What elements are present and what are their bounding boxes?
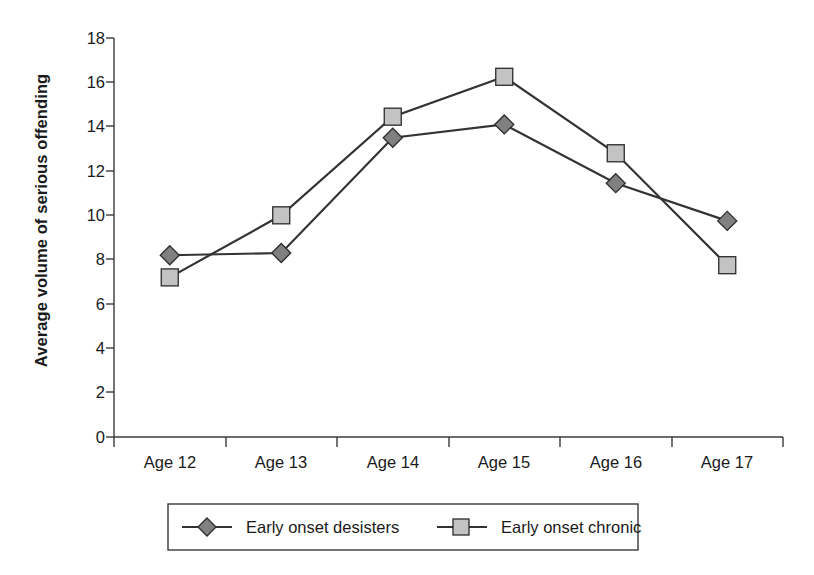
data-point-square (161, 269, 178, 286)
y-tick-label: 0 (96, 428, 105, 446)
y-tick-label: 8 (96, 250, 105, 268)
series-line (170, 77, 728, 278)
y-tick-labels: 18 16 14 12 10 8 6 4 2 0 (87, 29, 105, 446)
legend-label-chronic: Early onset chronic (501, 518, 641, 536)
data-series-layer (160, 68, 737, 286)
data-point-diamond (718, 211, 737, 230)
legend-item-chronic[interactable]: Early onset chronic (437, 518, 641, 536)
data-point-square (719, 257, 736, 274)
x-tick-label: Age 14 (367, 453, 419, 471)
y-tick-label: 10 (87, 206, 105, 224)
y-tick-label: 16 (87, 73, 105, 91)
data-point-diamond (606, 174, 625, 193)
legend-item-desisters[interactable]: Early onset desisters (182, 518, 399, 536)
y-tick-label: 14 (87, 117, 105, 135)
square-marker-icon (453, 519, 469, 535)
x-tick-label: Age 13 (255, 453, 307, 471)
data-point-square (273, 207, 290, 224)
x-tick-label: Age 15 (478, 453, 530, 471)
diamond-marker-icon (198, 518, 216, 536)
data-point-square (496, 68, 513, 85)
line-chart: Average volume of serious offending 18 1… (0, 0, 814, 575)
y-tick-label: 18 (87, 29, 105, 47)
series-line (170, 124, 728, 255)
x-tick-marks (114, 437, 783, 447)
data-point-square (607, 145, 624, 162)
x-tick-labels: Age 12 Age 13 Age 14 Age 15 Age 16 Age 1… (144, 453, 753, 471)
y-tick-label: 4 (96, 339, 105, 357)
chart-legend: Early onset desisters Early onset chroni… (168, 504, 641, 550)
series-desisters (160, 115, 737, 265)
legend-label-desisters: Early onset desisters (246, 518, 399, 536)
data-point-diamond (160, 246, 179, 265)
y-tick-marks (106, 38, 114, 437)
y-tick-label: 6 (96, 295, 105, 313)
data-point-square (384, 108, 401, 125)
x-tick-label: Age 17 (701, 453, 753, 471)
x-tick-label: Age 16 (590, 453, 642, 471)
data-point-diamond (495, 115, 514, 134)
chart-canvas: 18 16 14 12 10 8 6 4 2 0 (0, 0, 814, 575)
y-tick-label: 12 (87, 162, 105, 180)
y-tick-label: 2 (96, 383, 105, 401)
x-tick-label: Age 12 (144, 453, 196, 471)
